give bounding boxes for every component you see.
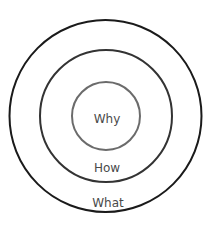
label-how: How <box>94 161 120 175</box>
label-what: What <box>92 196 124 210</box>
golden-circle-diagram: Why How What <box>0 0 209 225</box>
label-why: Why <box>94 112 121 126</box>
